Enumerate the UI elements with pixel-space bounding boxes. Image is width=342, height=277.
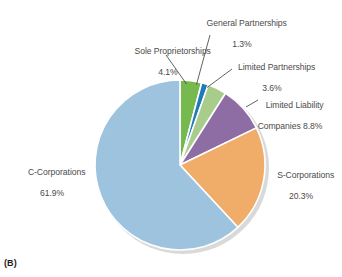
slice-label-s-corporations-value: 20.3% <box>262 191 340 201</box>
slice-label-limited-liability-companies: Limited Liability Companies 8.8% <box>240 90 340 152</box>
slice-label-c-corporations-name: C-Corporations <box>28 167 86 177</box>
figure-caption: (B) <box>4 258 17 268</box>
slice-label-sole-proprietorships: Sole Proprietorships 4.1% <box>118 36 218 98</box>
slice-label-sole-proprietorships-name: Sole Proprietorships <box>134 46 210 56</box>
slice-label-general-partnerships-name: General Partnerships <box>207 18 287 28</box>
slice-label-c-corporations-value: 61.9% <box>8 188 96 198</box>
slice-label-limited-liability-companies-value: Companies 8.8% <box>240 121 340 131</box>
slice-label-limited-liability-companies-name: Limited Liability <box>266 100 324 110</box>
slice-label-c-corporations: C-Corporations 61.9% <box>8 157 96 219</box>
slice-label-limited-partnerships-name: Limited Partnerships <box>238 62 315 72</box>
slice-label-s-corporations-name: S-Corporations <box>277 170 334 180</box>
slice-label-s-corporations: S-Corporations 20.3% <box>262 160 340 222</box>
slice-label-sole-proprietorships-value: 4.1% <box>118 67 218 77</box>
pie-chart-figure: General Partnerships 1.3% Sole Proprieto… <box>0 0 342 277</box>
